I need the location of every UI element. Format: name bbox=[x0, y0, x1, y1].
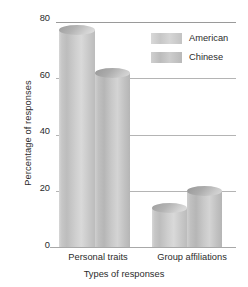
legend: American Chinese bbox=[151, 31, 228, 69]
bar-top-cap bbox=[95, 68, 130, 78]
x-category-label-group-affiliations: Group affiliations bbox=[112, 252, 248, 262]
legend-item-american: American bbox=[151, 31, 228, 45]
bar-body bbox=[95, 73, 130, 247]
bar-body bbox=[187, 191, 222, 247]
y-tick-label-0: 0 bbox=[24, 241, 50, 250]
bar-bottom-cap bbox=[152, 243, 187, 251]
legend-item-chinese: Chinese bbox=[151, 50, 228, 64]
bar-group-affiliations-chinese bbox=[187, 191, 222, 247]
y-tick-label-40: 40 bbox=[24, 127, 50, 136]
bar-bottom-cap bbox=[59, 243, 95, 251]
bar-bottom-cap bbox=[187, 243, 222, 251]
bar-top-cap bbox=[152, 203, 187, 213]
y-tick-label-60: 60 bbox=[24, 71, 50, 80]
legend-label-chinese: Chinese bbox=[189, 52, 223, 62]
y-tick-label-20: 20 bbox=[24, 184, 50, 193]
bar-bottom-cap bbox=[95, 243, 130, 251]
bar-chart: Percentage of responses 80 60 40 20 0 bbox=[0, 0, 248, 287]
legend-swatch-american bbox=[151, 33, 182, 44]
x-axis-title: Types of responses bbox=[0, 269, 248, 279]
bar-body bbox=[152, 208, 187, 247]
bar-personal-traits-american bbox=[59, 30, 95, 247]
gridline-80 bbox=[56, 22, 236, 23]
legend-swatch-chinese bbox=[151, 52, 182, 63]
legend-label-american: American bbox=[189, 33, 228, 43]
bar-group-affiliations-american bbox=[152, 208, 187, 247]
bar-top-cap bbox=[187, 186, 222, 196]
y-tick-label-80: 80 bbox=[24, 14, 50, 23]
bar-personal-traits-chinese bbox=[95, 73, 130, 247]
bar-body bbox=[59, 30, 95, 247]
